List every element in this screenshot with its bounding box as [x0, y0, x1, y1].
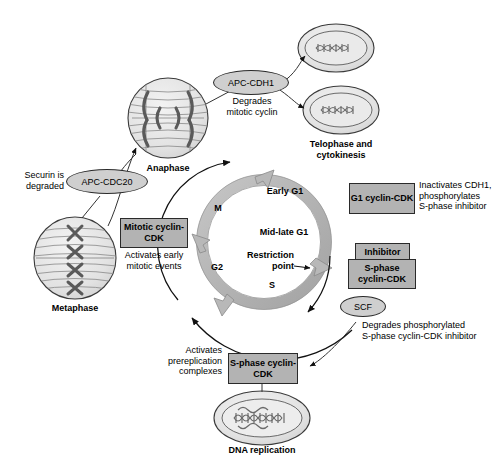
phase-label-m: M — [209, 203, 227, 214]
phase-label-g2: G2 — [206, 262, 228, 273]
apc-cdc20-annotation: Securin is degraded — [2, 170, 64, 191]
s-phase-cyclin-cdk-bottom-label: S-phase cyclin-CDK — [229, 358, 297, 380]
mitotic-cyclin-cdk-box[interactable]: Mitotic cyclin-CDK — [120, 218, 188, 248]
anaphase-label: Anaphase — [128, 163, 208, 174]
scf-ellipse[interactable]: SCF — [340, 296, 386, 317]
mitotic-cyclin-cdk-annotation: Activates early mitotic events — [116, 250, 192, 271]
s-phase-cyclin-cdk-right-box[interactable]: S-phase cyclin-CDK — [348, 259, 416, 289]
scf-annotation: Degrades phosphorylated S-phase cyclin-C… — [362, 320, 504, 341]
dna-replication-cell-graphic — [214, 391, 310, 445]
phase-label-s: S — [262, 280, 282, 291]
apc-cdh1-label: APC-CDH1 — [228, 78, 274, 88]
phase-label-mid-late-g1: Mid-late G1 — [243, 227, 325, 238]
apc-cdc20-ellipse[interactable]: APC-CDC20 — [66, 169, 148, 194]
connector-cdc20-metaphase — [82, 196, 100, 218]
metaphase-cell-graphic — [33, 217, 117, 299]
scf-label: SCF — [354, 302, 372, 312]
apc-cdh1-ellipse[interactable]: APC-CDH1 — [213, 70, 289, 95]
telophase-label: Telophase and cytokinesis — [291, 139, 391, 160]
mitotic-cyclin-cdk-label: Mitotic cyclin-CDK — [121, 222, 187, 244]
s-phase-cyclin-cdk-bottom-box[interactable]: S-phase cyclin-CDK — [228, 353, 298, 384]
g1-cyclin-cdk-label: G1 cyclin-CDK — [351, 193, 414, 204]
s-phase-cyclin-cdk-bottom-annotation: Activates prereplication complexes — [150, 345, 222, 377]
phase-label-restriction-point: Restriction point — [228, 250, 294, 271]
s-phase-cyclin-cdk-right-label: S-phase cyclin-CDK — [349, 263, 415, 285]
inhibitor-label: Inhibitor — [365, 247, 401, 258]
phase-label-early-g1: Early G1 — [252, 186, 318, 197]
dna-replication-label: DNA replication — [207, 445, 317, 455]
apc-cdc20-label: APC-CDC20 — [81, 177, 132, 187]
g1-cyclin-cdk-annotation: Inactivates CDH1, phosphorylates S-phase… — [419, 180, 504, 212]
anaphase-cell-graphic — [127, 78, 209, 158]
metaphase-label: Metaphase — [35, 303, 115, 314]
apc-cdh1-annotation: Degrades mitotic cyclin — [210, 96, 294, 117]
g1-cyclin-cdk-box[interactable]: G1 cyclin-CDK — [349, 183, 415, 214]
cell-cycle-diagram: Anaphase Metaphase Telophase and cytokin… — [0, 0, 504, 455]
telophase-cell-graphic — [298, 24, 379, 134]
